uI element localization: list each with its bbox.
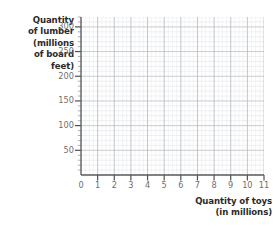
- x-tick-label: 0: [73, 181, 89, 190]
- x-tick-label: 10: [239, 181, 255, 190]
- x-tick-label: 6: [173, 181, 189, 190]
- x-tick-label: 9: [223, 181, 239, 190]
- x-tick-label: 4: [140, 181, 156, 190]
- y-tick-label: 200: [48, 72, 74, 81]
- y-tick-label: 300: [48, 22, 74, 31]
- x-axis-title-line-2: (in millions): [120, 207, 272, 218]
- x-tick-label: 8: [206, 181, 222, 190]
- x-tick-label: 11: [256, 181, 272, 190]
- x-tick-label: 7: [189, 181, 205, 190]
- y-tick-label: 250: [48, 47, 74, 56]
- y-tick-label: 100: [48, 121, 74, 130]
- x-tick-label: 5: [156, 181, 172, 190]
- y-tick-label: 150: [48, 96, 74, 105]
- y-tick-label: 50: [48, 146, 74, 155]
- axis-lines-and-ticks: [60, 8, 279, 194]
- x-tick-label: 2: [106, 181, 122, 190]
- x-axis-title: Quantity of toys (in millions): [120, 196, 272, 218]
- lumber-vs-toys-graph: Quantity of lumber (millions of board fe…: [0, 0, 279, 232]
- x-tick-label: 3: [123, 181, 139, 190]
- x-axis-title-line-1: Quantity of toys: [120, 196, 272, 207]
- x-tick-label: 1: [90, 181, 106, 190]
